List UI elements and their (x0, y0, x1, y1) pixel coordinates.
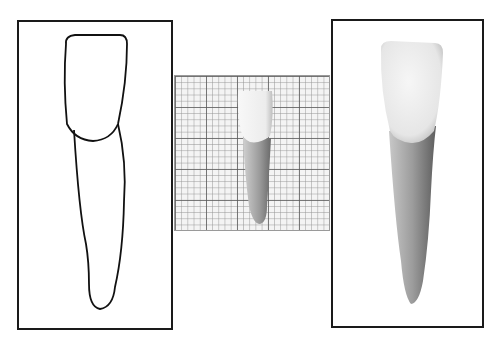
tooth-photo-on-grid (175, 76, 331, 232)
tooth-shaded-illustration (333, 21, 486, 330)
tooth-outline-drawing (19, 22, 175, 332)
figure-caption (160, 335, 410, 343)
graph-paper-panel (174, 75, 330, 231)
shaded-illustration-frame (331, 19, 484, 328)
outline-drawing-frame (17, 20, 173, 330)
